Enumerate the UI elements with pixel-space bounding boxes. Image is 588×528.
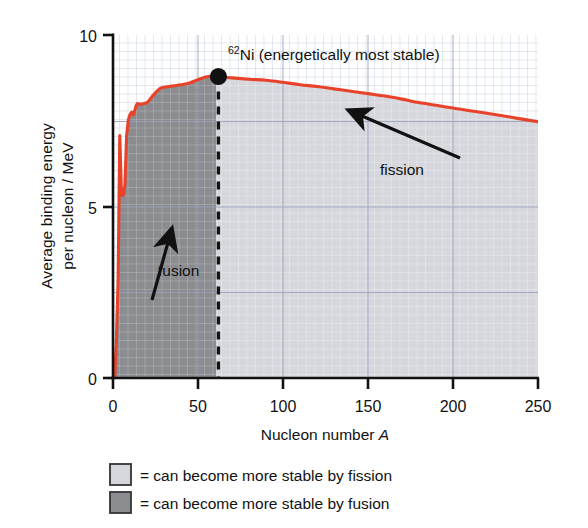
peak-annotation-superscript: 62 <box>228 44 240 56</box>
fission-label: fission <box>380 161 424 178</box>
y-ticks <box>103 35 113 378</box>
legend-swatch-fission <box>110 464 131 485</box>
y-tick-0: 0 <box>88 371 97 388</box>
binding-energy-chart: 10 5 0 0 50 100 150 200 250 Nucleon numb… <box>0 0 588 528</box>
peak-annotation-text: Ni (energetically most stable) <box>240 46 440 63</box>
y-axis-label-line1: Average binding energy <box>38 123 55 289</box>
x-tick-labels: 0 50 100 150 200 250 <box>109 398 552 415</box>
x-axis-label: Nucleon number A <box>261 426 389 443</box>
x-tick-200: 200 <box>440 398 467 415</box>
x-axis-label-text: Nucleon number <box>261 426 379 443</box>
y-tick-5: 5 <box>88 200 97 217</box>
fusion-label: fusion <box>158 262 199 279</box>
x-tick-250: 250 <box>525 398 552 415</box>
x-tick-50: 50 <box>189 398 207 415</box>
y-tick-labels: 10 5 0 <box>79 28 97 388</box>
x-axis-label-symbol: A <box>378 426 389 443</box>
chart-svg: 10 5 0 0 50 100 150 200 250 Nucleon numb… <box>0 0 588 528</box>
legend-swatch-fusion <box>110 492 131 513</box>
legend: = can become more stable by fission = ca… <box>110 464 392 513</box>
y-tick-10: 10 <box>79 28 97 45</box>
peak-annotation-label: 62Ni (energetically most stable) <box>228 44 440 63</box>
y-axis-label: Average binding energy per nucleon / MeV <box>38 123 76 289</box>
legend-label-fission: = can become more stable by fission <box>140 467 392 484</box>
peak-marker-dot <box>210 68 227 85</box>
x-tick-100: 100 <box>270 398 297 415</box>
x-ticks <box>113 378 538 389</box>
y-axis-label-line2: per nucleon / MeV <box>59 142 76 270</box>
legend-label-fusion: = can become more stable by fusion <box>140 495 389 512</box>
x-tick-0: 0 <box>109 398 118 415</box>
x-tick-150: 150 <box>355 398 382 415</box>
